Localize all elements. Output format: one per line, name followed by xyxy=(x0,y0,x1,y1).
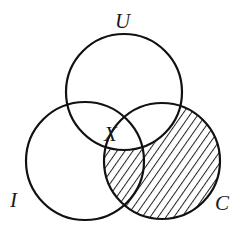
set-u-label: U xyxy=(115,9,132,33)
set-c-label: C xyxy=(215,191,230,215)
venn-diagram: U I C X xyxy=(0,0,243,233)
region-x-label: X xyxy=(103,122,118,146)
set-i-label: I xyxy=(9,188,18,212)
